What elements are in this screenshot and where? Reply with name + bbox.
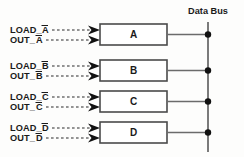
load-a-label: LOAD_ xyxy=(10,25,42,35)
register-group-b: LOAD_ B OUT_ B B xyxy=(10,60,211,81)
load-c-arrow-icon xyxy=(88,93,100,102)
load-b-label: LOAD_ xyxy=(10,61,42,71)
load-d-label: LOAD_ xyxy=(10,123,42,133)
load-b-register-letter: B xyxy=(42,61,49,71)
load-b-arrow-icon xyxy=(88,62,100,71)
out-d-label: OUT_ xyxy=(10,133,36,143)
register-group-a: LOAD_ A OUT_ A A xyxy=(10,24,211,45)
register-box-c-label: C xyxy=(130,96,137,107)
register-bank-diagram: Data Bus LOAD_ A OUT_ A A LOA xyxy=(0,0,244,157)
bus-junction-dot-b xyxy=(205,67,211,73)
out-a-label: OUT_ xyxy=(10,35,36,45)
register-group-d: LOAD_ D OUT_ D D xyxy=(10,122,211,143)
data-bus-label: Data Bus xyxy=(188,6,228,16)
load-c-register-letter: C xyxy=(42,92,49,102)
out-b-label: OUT_ xyxy=(10,71,36,81)
out-d-arrow-icon xyxy=(88,134,100,143)
out-c-register-letter: C xyxy=(36,102,43,112)
register-group-c: LOAD_ C OUT_ C C xyxy=(10,91,211,112)
register-box-a-label: A xyxy=(130,29,137,40)
out-b-arrow-icon xyxy=(88,72,100,81)
load-a-arrow-icon xyxy=(88,26,100,35)
load-d-register-letter: D xyxy=(42,123,49,133)
out-d-register-letter: D xyxy=(36,133,43,143)
out-a-register-letter: A xyxy=(36,35,43,45)
out-c-label: OUT_ xyxy=(10,102,36,112)
register-box-b-label: B xyxy=(130,65,137,76)
bus-junction-dot-a xyxy=(205,31,211,37)
out-b-register-letter: B xyxy=(36,71,43,81)
out-a-arrow-icon xyxy=(88,36,100,45)
register-box-d-label: D xyxy=(130,127,137,138)
out-c-arrow-icon xyxy=(88,103,100,112)
load-c-label: LOAD_ xyxy=(10,92,42,102)
bus-junction-dot-d xyxy=(205,129,211,135)
load-d-arrow-icon xyxy=(88,124,100,133)
load-a-register-letter: A xyxy=(42,25,49,35)
diagram-canvas: Data Bus LOAD_ A OUT_ A A LOA xyxy=(0,0,244,157)
bus-junction-dot-c xyxy=(205,98,211,104)
